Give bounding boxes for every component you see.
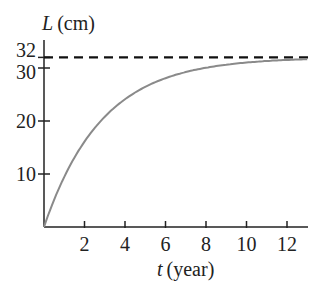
y-ticks: 10203032 [16, 39, 50, 185]
x-tick-label: 2 [80, 233, 90, 255]
x-tick-label: 4 [120, 233, 130, 255]
x-axis-title: t(year) [157, 258, 214, 281]
y-tick-label: 32 [16, 39, 36, 61]
y-axis-title: L(cm) [41, 12, 95, 35]
growth-curve [44, 59, 307, 227]
y-tick-label: 20 [16, 110, 36, 132]
x-tick-label: 10 [237, 233, 257, 255]
y-tick-label: 30 [16, 61, 36, 83]
x-ticks: 24681012 [80, 221, 298, 255]
y-tick-label: 10 [16, 163, 36, 185]
chart: 24681012 10203032 L(cm) t(year) [0, 0, 310, 295]
x-tick-label: 12 [277, 233, 297, 255]
x-tick-label: 8 [201, 233, 211, 255]
x-tick-label: 6 [161, 233, 171, 255]
